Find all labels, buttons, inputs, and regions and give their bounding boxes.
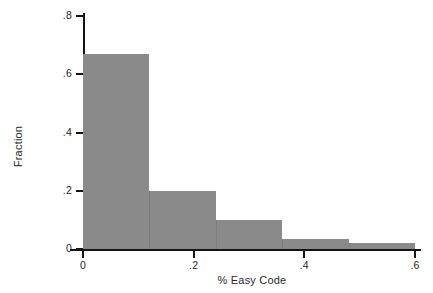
histogram-bar — [349, 243, 415, 249]
x-axis-label: % Easy Code — [83, 274, 421, 286]
histogram-bar — [282, 239, 348, 249]
histogram-bar — [149, 191, 215, 249]
histogram-figure: Fraction 0.2.4.6.8 0.2.4.6 % Easy Code — [0, 0, 433, 293]
bar-series — [0, 0, 433, 293]
histogram-bar — [216, 220, 282, 249]
plot-area: 0.2.4.6.8 0.2.4.6 — [0, 0, 433, 293]
histogram-bar — [83, 54, 149, 249]
